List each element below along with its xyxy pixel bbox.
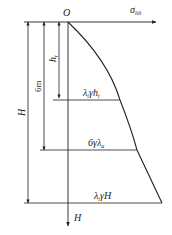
dimension-H-label: H — [16, 108, 27, 117]
depth-axis-label: H — [73, 212, 82, 223]
origin-label: O — [63, 7, 70, 18]
dimension-6m-label: 6m — [33, 80, 43, 92]
pressure-label-ht: λtγht — [82, 87, 100, 99]
pressure-label-6m: 6γλa — [88, 137, 104, 149]
pressure-curve — [68, 22, 162, 203]
dimension-ht-label: ht — [47, 55, 59, 62]
sigma-label: σhlt — [130, 4, 142, 16]
earth-pressure-diagram: O σhlt H H 6m ht λtγht 6γλa λtγH — [0, 0, 172, 235]
pressure-label-H: λtγH — [93, 190, 112, 202]
